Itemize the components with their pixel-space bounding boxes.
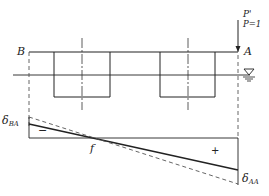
node-label-b: B [16,45,25,58]
right-box [160,52,215,97]
influence-line-dashed [29,117,238,184]
positive-sign: + [211,145,219,156]
delta-aa-label: δAA [242,172,259,186]
influence-line-diagram: B A P' P=1 δBA δAA f − + [0,0,269,196]
load-value-label: P=1 [242,19,261,29]
load-arrow-head [236,46,241,52]
zero-point-label: f [89,142,96,155]
node-label-a: A [243,45,252,58]
load-name-label: P' [242,9,252,19]
delta-ba-label: δBA [2,114,19,128]
negative-sign: − [38,124,47,137]
influence-line-solid [29,124,238,170]
